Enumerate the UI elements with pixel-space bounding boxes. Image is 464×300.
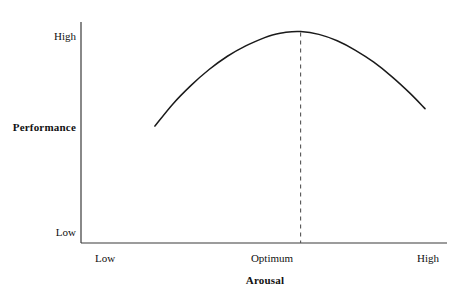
x-axis-title: Arousal	[246, 274, 284, 286]
yerkes-dodson-plot	[0, 0, 464, 300]
chart-canvas: High Low Performance Low Optimum High Ar…	[0, 0, 464, 300]
y-axis-tick-low: Low	[56, 226, 76, 238]
x-axis-tick-low: Low	[95, 252, 115, 264]
performance-curve	[155, 31, 425, 126]
y-axis-title: Performance	[13, 121, 76, 133]
x-axis-tick-optimum: Optimum	[251, 252, 293, 264]
x-axis-tick-high: High	[417, 252, 439, 264]
y-axis-tick-high: High	[54, 30, 76, 42]
